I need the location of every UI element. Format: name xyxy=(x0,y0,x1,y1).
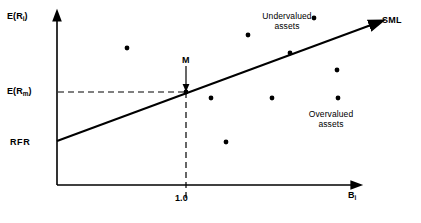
market-portfolio-label: M xyxy=(182,55,190,65)
y-tick-market-return-main: E(R xyxy=(7,86,23,96)
x-axis-title: Bi xyxy=(348,190,356,201)
asset-point xyxy=(288,51,293,56)
y-tick-label-risk-free-rate: RFR xyxy=(10,137,30,147)
y-axis-title-close: ) xyxy=(25,11,28,21)
x-axis-title-subscript: i xyxy=(355,194,357,201)
sml-chart-figure: E(Ri) E(Rm) RFR 1.0 Bi M SML Undervalued… xyxy=(0,0,421,223)
asset-point xyxy=(270,96,275,101)
asset-point xyxy=(125,46,130,51)
y-axis-title-main: E(R xyxy=(7,11,23,21)
y-axis-title: E(Ri) xyxy=(7,11,28,22)
y-tick-market-return-subscript: m xyxy=(23,90,29,97)
overvalued-assets-line1: Overvalued xyxy=(309,109,353,119)
asset-point xyxy=(246,33,251,38)
overvalued-assets-annotation: Overvalued assets xyxy=(295,109,367,129)
undervalued-assets-annotation: Undervalued assets xyxy=(253,11,321,31)
sml-label: SML xyxy=(382,15,402,25)
asset-point xyxy=(336,96,341,101)
y-axis-title-subscript: i xyxy=(23,15,25,22)
market-portfolio-point xyxy=(184,90,189,95)
y-tick-label-market-return: E(Rm) xyxy=(7,86,32,97)
x-axis-title-main: B xyxy=(348,190,355,200)
undervalued-assets-line2: assets xyxy=(274,21,299,31)
x-tick-label-beta-one: 1.0 xyxy=(175,193,188,203)
asset-point xyxy=(335,68,340,73)
undervalued-assets-line1: Undervalued xyxy=(262,11,311,21)
overvalued-assets-line2: assets xyxy=(318,119,343,129)
asset-point xyxy=(224,140,229,145)
asset-point xyxy=(209,96,214,101)
